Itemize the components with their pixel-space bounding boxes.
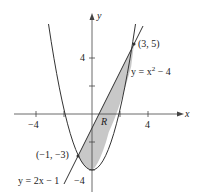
- y-axis-arrow-icon: [90, 13, 95, 20]
- shaded-region: [78, 44, 134, 170]
- lower-point-label: (−1, −3): [36, 149, 69, 161]
- x-tick-label-neg4: −4: [28, 119, 39, 130]
- line-equation: y = 2x − 1: [18, 175, 59, 186]
- x-tick-label-4: 4: [145, 119, 150, 130]
- y-tick-label-neg4: −4: [74, 175, 85, 186]
- region-label: R: [100, 116, 107, 127]
- graph-canvas: y x −4 4 4 −4 (3, 5) (−1, −3) R y = x2 −…: [0, 0, 198, 196]
- x-axis-label: x: [184, 108, 190, 119]
- point-upper-intersection: [133, 43, 136, 46]
- y-axis-label: y: [96, 10, 102, 21]
- x-axis-arrow-icon: [177, 112, 184, 117]
- parabola-equation: y = x2 − 4: [131, 65, 171, 77]
- point-lower-intersection: [77, 155, 80, 158]
- upper-point-label: (3, 5): [138, 38, 160, 50]
- parabola-eq-suffix: − 4: [155, 66, 171, 77]
- y-tick-label-4: 4: [80, 52, 85, 63]
- parabola-eq-prefix: y = x: [131, 66, 152, 77]
